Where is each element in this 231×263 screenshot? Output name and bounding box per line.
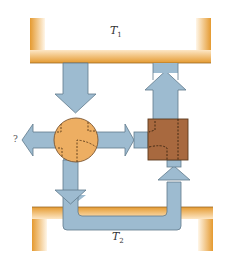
cold-reservoir-label: T2 — [112, 230, 124, 245]
heat-in-engine-arrow — [55, 63, 96, 113]
cold-loop-pipe — [55, 158, 190, 230]
diagram-canvas — [0, 0, 231, 263]
engine — [54, 118, 98, 162]
heat-out-refrigerator-arrow — [145, 63, 186, 120]
hot-reservoir-label: T1 — [110, 24, 122, 39]
work-arrow — [92, 124, 148, 156]
refrigerator — [148, 119, 188, 160]
unknown-output-label: ? — [13, 134, 18, 144]
